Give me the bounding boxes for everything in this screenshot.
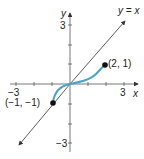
graph [0, 0, 144, 159]
identity-line [70, 21, 125, 84]
point-neg1-neg1 [50, 100, 56, 106]
x-axis-label: x [133, 89, 138, 99]
point-label-neg1-neg1: (−1, −1) [5, 98, 40, 108]
x-tick-label-3: 3 [120, 88, 126, 98]
y-axis-label: y [61, 9, 66, 19]
y-tick-label-neg3: −3 [56, 139, 67, 149]
point-label-2-1: (2, 1) [108, 59, 131, 69]
point-2-1 [102, 62, 108, 68]
line-label: y = x [118, 6, 139, 16]
y-tick-label-3: 3 [60, 21, 66, 31]
identity-line-lower [19, 84, 70, 145]
